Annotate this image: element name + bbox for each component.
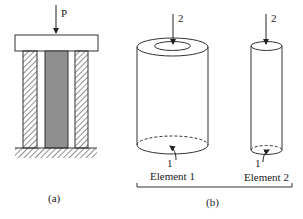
element-2-bottom-back-arc <box>251 146 282 151</box>
element-1-node-2-label: 2 <box>178 12 184 24</box>
element-1-node-1-label: 1 <box>167 157 173 169</box>
element-1-bottom-front-arc <box>137 145 208 154</box>
element-2-node-1-arrow-icon <box>263 150 269 162</box>
element-2-node-2-label: 2 <box>271 12 277 24</box>
caption-b: (b) <box>206 196 219 209</box>
element-2-label: Element 2 <box>244 171 289 183</box>
load-label: P <box>61 7 67 19</box>
element-1-bottom-back-arc <box>137 136 208 145</box>
part-a-assembly: P (a) <box>15 5 98 205</box>
inner-core-rod <box>45 51 68 148</box>
outer-tube-right-wall <box>75 51 88 148</box>
ground-hatch <box>15 148 97 158</box>
element-1-label: Element 1 <box>150 170 195 182</box>
rigid-top-plate <box>15 35 98 51</box>
caption-a: (a) <box>48 192 61 205</box>
part-b-bracket <box>137 183 292 187</box>
diagram-canvas: P (a) 2 1 Element 1 <box>0 0 303 219</box>
outer-tube-left-wall <box>23 51 37 148</box>
element-2-solid-cylinder: 2 1 Element 2 <box>244 12 289 183</box>
element-1-hollow-cylinder: 2 1 Element 1 <box>137 12 208 182</box>
element-2-node-1-label: 1 <box>255 157 261 169</box>
